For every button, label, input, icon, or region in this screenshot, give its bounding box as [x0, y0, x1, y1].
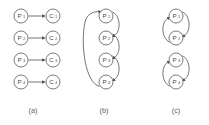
- edge-b-p4-p1: [83, 10, 102, 86]
- edge-a-p2-c2: [29, 36, 46, 39]
- node-c-p2: P 2: [169, 31, 183, 45]
- node-a-p1: P 1: [14, 9, 28, 23]
- node-a-c4-label: C: [49, 78, 54, 85]
- panel-a: P 1 C 1 P 2 C 2: [14, 9, 60, 115]
- node-a-p2: P 2: [14, 31, 28, 45]
- edge-a-p3-c3: [29, 58, 46, 61]
- node-c-p4: P 4: [169, 75, 183, 89]
- node-c-p2-label: P: [173, 34, 177, 41]
- panel-b-caption: (b): [100, 106, 109, 115]
- node-b-p1: P 1: [99, 9, 113, 23]
- node-b-p4-label: P: [103, 78, 107, 85]
- node-b-p4: P 4: [99, 75, 113, 89]
- node-b-p3-label: P: [103, 56, 107, 63]
- node-a-c1: C 1: [46, 9, 60, 23]
- panel-c: P 1 P 2 P 3: [163, 9, 189, 115]
- figure-container: P 1 C 1 P 2 C 2: [0, 0, 209, 125]
- edge-a-p4-c4: [29, 80, 46, 83]
- node-a-c2: C 2: [46, 31, 60, 45]
- node-a-c3-label: C: [49, 56, 54, 63]
- node-a-p2-label: P: [18, 34, 22, 41]
- node-a-c2-label: C: [49, 34, 54, 41]
- node-c-p3-label: P: [173, 56, 177, 63]
- node-c-p3: P 3: [169, 53, 183, 67]
- node-b-p2: P 2: [99, 31, 113, 45]
- edge-a-p1-c1: [29, 14, 46, 17]
- node-c-p1-label: P: [173, 12, 177, 19]
- panel-c-caption: (c): [172, 106, 180, 115]
- node-a-c1-label: C: [49, 12, 54, 19]
- node-a-p4: P 4: [14, 75, 28, 89]
- panel-a-caption: (a): [29, 106, 38, 115]
- node-c-p1: P 1: [169, 9, 183, 23]
- node-a-c4: C 4: [46, 75, 60, 89]
- panel-b: P 1 P 2 P 3 P 4 (b): [83, 9, 119, 115]
- node-a-c3: C 3: [46, 53, 60, 67]
- node-b-p3: P 3: [99, 53, 113, 67]
- node-a-p1-label: P: [18, 12, 22, 19]
- node-b-p1-label: P: [103, 12, 107, 19]
- node-a-p3: P 3: [14, 53, 28, 67]
- node-b-p2-label: P: [103, 34, 107, 41]
- node-a-p3-label: P: [18, 56, 22, 63]
- node-c-p4-label: P: [173, 78, 177, 85]
- node-a-p4-label: P: [18, 78, 22, 85]
